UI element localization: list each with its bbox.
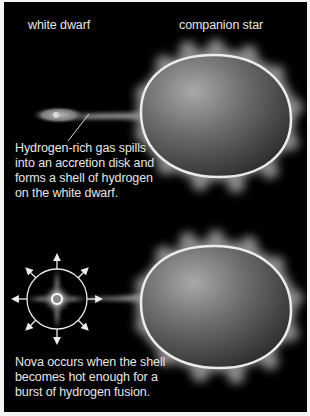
companion-star: [141, 55, 291, 177]
gas-stream: [89, 293, 144, 303]
companion-star: [141, 246, 291, 368]
label-companion-star: companion star: [179, 18, 263, 33]
panel-accretion: white dwarf companion star Hydrogen-rich…: [4, 2, 307, 207]
panel-nova: Nova occurs when the shell becomes hot e…: [4, 207, 307, 412]
label-white-dwarf: white dwarf: [28, 18, 90, 33]
diagram-frame: white dwarf companion star Hydrogen-rich…: [4, 2, 307, 412]
nova-burst: [15, 257, 99, 341]
white-dwarf: [53, 112, 59, 118]
caption-accretion: Hydrogen-rich gas spills into an accreti…: [15, 141, 154, 201]
caption-nova: Nova occurs when the shell becomes hot e…: [15, 355, 165, 400]
